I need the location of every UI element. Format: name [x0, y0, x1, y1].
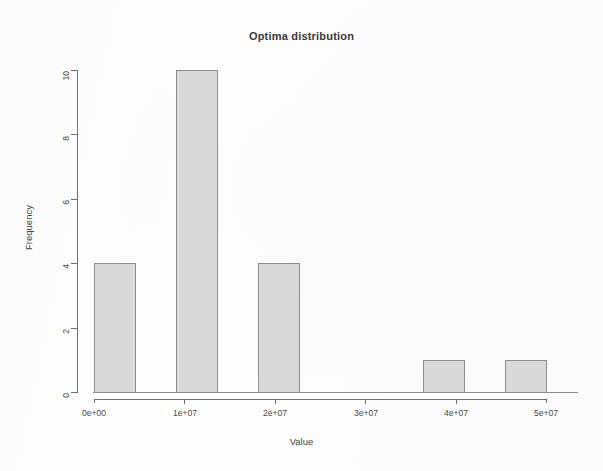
plot-canvas: [0, 0, 603, 471]
x-tick-label: 4e+07: [444, 408, 468, 418]
y-axis-title: Frequency: [23, 178, 34, 278]
y-tick-label: 8: [61, 136, 71, 141]
y-tick-label: 10: [61, 71, 71, 81]
histogram-plot: Optima distribution 0e+00 1e+07 2e+07 3e…: [0, 0, 603, 471]
histogram-bar: [95, 264, 136, 393]
y-axis: [71, 70, 78, 393]
x-tick-label: 2e+07: [263, 408, 287, 418]
bars-group: [95, 71, 547, 393]
x-tick-label: 3e+07: [354, 408, 378, 418]
y-tick-label: 2: [61, 329, 71, 334]
y-tick-label: 0: [61, 393, 71, 398]
histogram-bar: [177, 71, 218, 393]
x-axis: [95, 400, 547, 405]
y-tick-label: 6: [61, 200, 71, 205]
histogram-bar: [506, 361, 547, 393]
x-axis-title: Value: [0, 436, 603, 447]
x-tick-label: 1e+07: [173, 408, 197, 418]
histogram-bar: [424, 361, 465, 393]
x-tick-label: 0e+00: [82, 408, 106, 418]
x-tick-label: 5e+07: [534, 408, 558, 418]
y-tick-label: 4: [61, 264, 71, 269]
histogram-bar: [259, 264, 300, 393]
